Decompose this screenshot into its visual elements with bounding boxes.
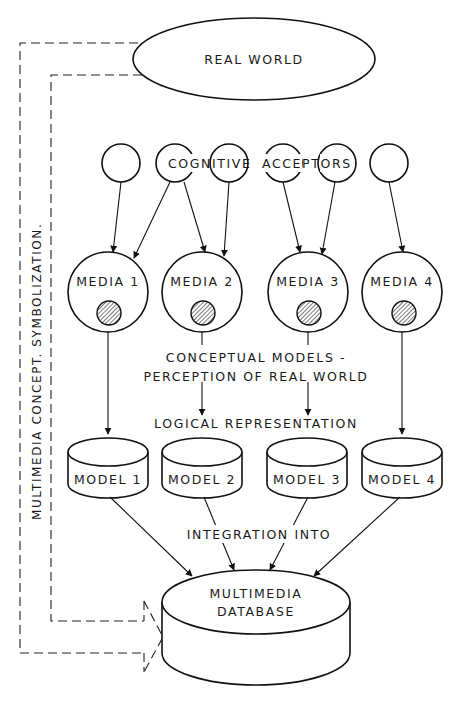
dashed-arrow-head-icon — [144, 601, 163, 672]
media-label: MEDIA 4 — [370, 274, 434, 289]
real-world-node: REAL WORLD — [133, 18, 375, 100]
cognitive-acceptors: COGNITIVE ACCEPTORS — [102, 144, 408, 182]
model-cylinder-3: MODEL 3 — [267, 438, 347, 498]
media-node-3: MEDIA 3 — [268, 252, 348, 332]
hatched-disc-icon — [191, 301, 215, 325]
multimedia-database: MULTIMEDIA DATABASE — [162, 570, 350, 685]
acceptor-arrows — [113, 182, 403, 258]
cognitive-label: COGNITIVE — [168, 156, 251, 171]
model-nodes: MODEL 1 MODEL 2 MODEL 3 MODEL 4 — [68, 438, 442, 498]
acceptor-circle-6 — [370, 144, 408, 182]
conceptual-models-label: CONCEPTUAL MODELS - — [166, 350, 346, 365]
hatched-disc-icon — [97, 301, 121, 325]
real-world-label: REAL WORLD — [204, 52, 304, 67]
media-node-1: MEDIA 1 — [68, 252, 148, 332]
perception-label: PERCEPTION OF REAL WORLD — [143, 369, 368, 384]
hatched-disc-icon — [297, 301, 321, 325]
hatched-disc-icon — [392, 301, 416, 325]
model-label: MODEL 2 — [168, 472, 236, 487]
database-label-line2: DATABASE — [217, 604, 295, 619]
logical-representation-label: LOGICAL REPRESENTATION — [154, 416, 358, 431]
media-label: MEDIA 3 — [276, 274, 340, 289]
media-node-2: MEDIA 2 — [162, 252, 242, 332]
database-label-line1: MULTIMEDIA — [209, 586, 302, 601]
media-node-4: MEDIA 4 — [362, 252, 442, 332]
media-nodes: MEDIA 1 MEDIA 2 MEDIA 3 MEDIA 4 — [68, 252, 442, 332]
model-cylinder-1: MODEL 1 — [68, 438, 148, 498]
model-label: MODEL 4 — [368, 472, 436, 487]
model-cylinder-4: MODEL 4 — [362, 438, 442, 498]
model-label: MODEL 1 — [74, 472, 142, 487]
media-label: MEDIA 2 — [170, 274, 234, 289]
media-label: MEDIA 1 — [76, 274, 140, 289]
side-label: MULTIMEDIA CONCEPT. SYMBOLIZATION. — [30, 223, 44, 520]
multimedia-database-diagram: MULTIMEDIA CONCEPT. SYMBOLIZATION. REAL … — [0, 0, 462, 701]
acceptor-circle-1 — [102, 144, 140, 182]
model-cylinder-2: MODEL 2 — [162, 438, 242, 498]
acceptors-label: ACCEPTORS — [262, 156, 352, 171]
model-label: MODEL 3 — [273, 472, 341, 487]
integration-label: INTEGRATION INTO — [187, 527, 332, 542]
